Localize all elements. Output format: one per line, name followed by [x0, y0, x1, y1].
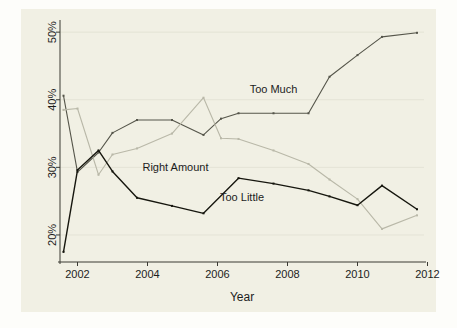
data-point	[357, 198, 359, 200]
data-point	[112, 170, 114, 172]
data-point	[98, 174, 100, 176]
x-tick-label: 2012	[415, 268, 439, 280]
data-point	[171, 119, 173, 121]
data-point	[220, 137, 222, 139]
data-point	[329, 179, 331, 181]
axis-lines	[58, 20, 426, 264]
data-point	[171, 133, 173, 135]
data-point	[77, 169, 79, 171]
data-point	[77, 108, 79, 110]
data-point	[238, 112, 240, 114]
y-tick-label: 30%	[46, 156, 58, 178]
x-axis-tick-labels: 200220042006200820102012	[65, 268, 439, 280]
data-point	[416, 208, 418, 210]
y-tick-label: 50%	[46, 21, 58, 43]
series-line-right-amount	[64, 98, 418, 229]
data-point	[273, 149, 275, 151]
data-point	[329, 76, 331, 78]
data-point	[63, 109, 65, 111]
data-point	[203, 97, 205, 99]
data-point	[308, 163, 310, 165]
data-point	[238, 177, 240, 179]
chart-screenshot: 20%30%40%50% 200220042006200820102012 To…	[0, 0, 457, 328]
data-point	[136, 197, 138, 199]
data-point	[381, 228, 383, 230]
data-point	[112, 132, 114, 134]
data-point	[203, 134, 205, 136]
data-point	[220, 118, 222, 120]
series-label-right-amount: Right Amount	[142, 161, 208, 173]
data-point	[357, 204, 359, 206]
data-point	[98, 149, 100, 151]
series-line-too-much	[64, 33, 418, 172]
x-axis-title: Year	[230, 290, 254, 304]
y-axis-tick-labels: 20%30%40%50%	[46, 21, 58, 246]
data-point	[238, 138, 240, 140]
y-tick-label: 20%	[46, 224, 58, 246]
data-point	[136, 147, 138, 149]
data-point	[136, 119, 138, 121]
data-point	[381, 36, 383, 38]
x-tick-label: 2002	[65, 268, 89, 280]
data-point	[112, 154, 114, 156]
x-tick-label: 2006	[205, 268, 229, 280]
data-point	[357, 54, 359, 56]
data-point	[416, 32, 418, 34]
data-point	[63, 251, 65, 253]
series-label-too-little: Too Little	[220, 191, 264, 203]
data-point	[273, 183, 275, 185]
data-point	[63, 95, 65, 97]
data-point	[203, 212, 205, 214]
series-label-too-much: Too Much	[250, 83, 298, 95]
y-tick-label: 40%	[46, 89, 58, 111]
line-chart: 20%30%40%50% 200220042006200820102012 To…	[0, 0, 457, 328]
tick-marks	[56, 32, 428, 266]
data-point	[308, 112, 310, 114]
data-series-lines	[63, 32, 419, 253]
data-point	[171, 205, 173, 207]
data-point	[329, 195, 331, 197]
data-point	[308, 189, 310, 191]
series-inline-labels: Too MuchRight AmountToo Little	[142, 83, 297, 203]
x-tick-label: 2008	[275, 268, 299, 280]
data-point	[273, 112, 275, 114]
x-tick-label: 2010	[345, 268, 369, 280]
data-point	[381, 185, 383, 187]
x-tick-label: 2004	[135, 268, 159, 280]
gridlines	[60, 32, 424, 235]
data-point	[416, 214, 418, 216]
